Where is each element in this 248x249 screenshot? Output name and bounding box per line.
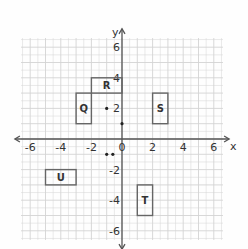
point	[105, 153, 108, 156]
rectangle-label: R	[103, 80, 111, 91]
tick-labels: xy-6-4-20246642-2-4-6	[25, 26, 237, 238]
x-tick-label: 4	[180, 141, 187, 154]
y-tick-label: -6	[109, 225, 120, 238]
y-axis-label: y	[112, 26, 119, 39]
rectangle-label: S	[157, 103, 164, 114]
point	[105, 107, 108, 110]
y-tick-label: -2	[109, 164, 120, 177]
x-tick-label: 6	[210, 141, 217, 154]
rectangle-label: Q	[79, 103, 88, 114]
x-tick-label: -4	[55, 141, 66, 154]
point	[111, 153, 114, 156]
x-tick-label: -6	[25, 141, 36, 154]
y-tick-label: 6	[113, 41, 120, 54]
x-tick-label: 2	[149, 141, 156, 154]
y-tick-label: 2	[113, 102, 120, 115]
axes	[15, 29, 229, 249]
x-axis-label: x	[230, 140, 237, 153]
y-tick-label: -4	[109, 194, 120, 207]
coordinate-plane: xy-6-4-20246642-2-4-6 QRSUT	[0, 0, 248, 249]
point	[120, 122, 123, 125]
coordinate-plane-diagram: xy-6-4-20246642-2-4-6 QRSUT	[0, 0, 248, 249]
x-tick-label: 0	[119, 141, 126, 154]
rectangle-label: T	[142, 195, 149, 206]
rectangle-label: U	[57, 172, 65, 183]
x-tick-label: -2	[86, 141, 97, 154]
